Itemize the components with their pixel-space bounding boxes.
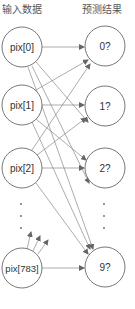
output-node-2: 2? [85, 148, 125, 188]
edge [36, 183, 88, 254]
input-node-pix783: pix[783] [2, 248, 42, 288]
node-label: pix[1] [10, 100, 34, 111]
edge [37, 118, 86, 155]
edge [36, 60, 88, 90]
node-label: pix[0] [10, 42, 34, 53]
node-label: pix[783] [5, 263, 38, 274]
input-ellipsis [20, 203, 22, 229]
node-label: 9? [99, 262, 111, 273]
node-label: pix[2] [10, 163, 34, 174]
edge [33, 236, 40, 251]
input-layer: pix[0] pix[1] pix[2] pix[783] [2, 27, 42, 288]
output-layer: 0? 1? 2? 9? [85, 26, 125, 287]
network-diagram: pix[0] pix[1] pix[2] pix[783] 0? 1? [0, 0, 135, 309]
node-label: 1? [99, 101, 111, 112]
output-node-0: 0? [85, 26, 125, 66]
output-node-9: 9? [85, 247, 125, 287]
node-label: 0? [99, 41, 111, 52]
edge [38, 240, 48, 254]
input-node-pix1: pix[1] [2, 85, 42, 125]
input-node-pix2: pix[2] [2, 148, 42, 188]
node-label: 2? [99, 163, 111, 174]
input-node-pix0: pix[0] [2, 27, 42, 67]
output-ellipsis [103, 203, 105, 229]
output-node-1: 1? [85, 86, 125, 126]
edge [36, 62, 88, 122]
edge [32, 122, 90, 249]
edge [27, 232, 31, 249]
